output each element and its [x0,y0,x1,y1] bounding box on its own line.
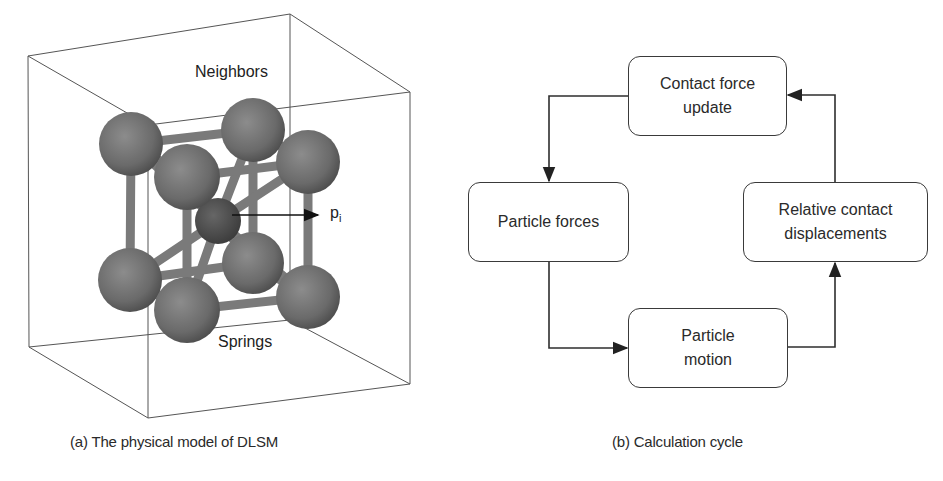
box-contact-force-update: Contact force update [628,56,787,136]
box-relative-contact-displacements: Relative contact displacements [743,182,928,262]
box-particle-motion-line2: motion [681,348,734,372]
box-particle-forces: Particle forces [468,182,629,262]
arrow-displacements-to-update [788,95,835,182]
caption-panel-b: (b) Calculation cycle [612,433,743,450]
arrow-forces-to-motion [549,262,627,348]
box-particle-forces-line1: Particle forces [498,210,599,234]
box-relative-contact-displacements-line1: Relative contact [779,198,893,222]
arrow-motion-to-displacements [787,263,835,347]
figure: Neighbors Springs pi Contact force updat… [0,0,943,481]
box-particle-motion: Particle motion [628,308,788,388]
box-particle-motion-line1: Particle [681,324,734,348]
box-contact-force-update-line1: Contact force [660,72,755,96]
box-relative-contact-displacements-line2: displacements [779,222,893,246]
caption-panel-a: (a) The physical model of DLSM [70,433,278,450]
box-contact-force-update-line2: update [660,96,755,120]
arrow-update-to-forces [549,96,628,181]
